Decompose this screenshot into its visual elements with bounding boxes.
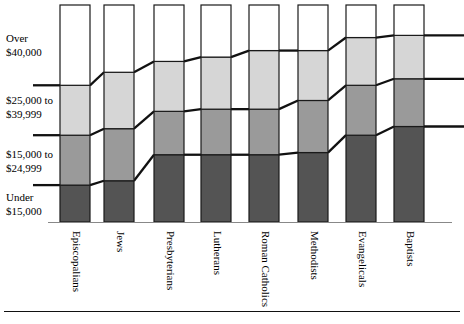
bar-methodists	[298, 5, 328, 222]
bar-baptists	[394, 5, 424, 222]
segment-connector-line	[134, 61, 154, 72]
bar-segment	[394, 5, 424, 35]
bar-segment	[394, 35, 424, 78]
bar-jews	[104, 5, 134, 222]
bar-lutherans	[201, 5, 231, 222]
segment-connector-line	[328, 38, 346, 51]
segment-connector-line	[279, 153, 298, 155]
income-bracket-labels: Over $40,000 $25,000 to $39,999 $15,000 …	[6, 32, 54, 217]
bracket-label-over-40000-line1: Over	[6, 32, 28, 44]
bar-segment	[249, 51, 279, 110]
segment-connector-line	[184, 57, 201, 61]
segment-connector-line	[134, 155, 154, 181]
bar-segment	[104, 72, 134, 128]
bar-segment	[60, 185, 90, 222]
bar-segment	[60, 5, 90, 85]
bar-segment	[346, 38, 376, 86]
segment-connector-line	[90, 72, 104, 85]
bar-segment	[60, 85, 90, 135]
bar-segment	[346, 135, 376, 222]
segment-connector-line	[90, 129, 104, 136]
segment-connector-line	[376, 35, 394, 37]
bar-segment	[104, 5, 134, 72]
bar-episcopalians	[60, 5, 90, 222]
segment-connector-line	[134, 111, 154, 128]
bar-roman-catholics	[249, 5, 279, 222]
bracket-label-15000-24999-line1: $15,000 to	[6, 148, 54, 160]
segment-connector-line	[184, 109, 201, 111]
bar-segment	[346, 5, 376, 38]
bar-segment	[154, 5, 184, 61]
category-label: Jews	[115, 231, 127, 252]
bar-segment	[394, 127, 424, 222]
segment-connector-line	[328, 135, 346, 152]
bar-segment	[249, 5, 279, 51]
bar-segment	[201, 155, 231, 222]
bar-segment	[298, 51, 328, 101]
bar-segment	[201, 57, 231, 109]
category-label: Methodists	[309, 231, 321, 280]
bar-segment	[346, 85, 376, 135]
category-label: Evangelicals	[357, 231, 369, 287]
segment-connector-line	[376, 127, 394, 136]
bar-segment	[249, 109, 279, 155]
bar-segment	[154, 61, 184, 111]
bar-segment	[201, 109, 231, 155]
figure-bottom-rule	[4, 311, 460, 312]
bar-segment	[104, 181, 134, 222]
bar-segment	[201, 5, 231, 57]
bar-segment	[154, 155, 184, 222]
segment-connector-line	[328, 85, 346, 100]
segment-connector-line	[231, 51, 249, 58]
bracket-label-25000-39999-line2: $39,999	[6, 108, 42, 120]
category-axis: Episcopalians Jews Presbyterians Luthera…	[71, 231, 417, 307]
category-label: Presbyterians	[165, 231, 177, 290]
bar-segment	[104, 129, 134, 181]
segment-connector-line	[376, 79, 394, 86]
bar-presbyterians	[154, 5, 184, 222]
bracket-label-25000-39999-line1: $25,000 to	[6, 94, 54, 106]
bracket-label-under-15000-line1: Under	[6, 191, 34, 203]
bar-segment	[249, 155, 279, 222]
category-label: Lutherans	[212, 231, 224, 275]
segment-connector-line	[90, 181, 104, 185]
bar-segment	[298, 5, 328, 51]
bar-segment	[298, 100, 328, 152]
category-label: Episcopalians	[71, 231, 83, 292]
category-label: Baptists	[405, 231, 417, 266]
bar-segment	[60, 135, 90, 185]
chart-svg: Episcopalians Jews Presbyterians Luthera…	[0, 0, 464, 324]
bar-evangelicals	[346, 5, 376, 222]
bar-segment	[298, 153, 328, 222]
bar-segment	[154, 111, 184, 154]
category-label: Roman Catholics	[260, 231, 272, 307]
bracket-label-15000-24999-line2: $24,999	[6, 162, 42, 174]
segment-connector-line	[279, 100, 298, 109]
bar-segment	[394, 79, 424, 127]
bracket-label-under-15000-line2: $15,000	[6, 205, 42, 217]
plot-area	[33, 5, 464, 222]
bracket-label-over-40000-line2: $40,000	[6, 46, 42, 58]
stacked-bar-chart: Episcopalians Jews Presbyterians Luthera…	[0, 0, 464, 324]
